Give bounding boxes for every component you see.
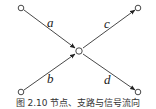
signal-flow-diagram: a b c d bbox=[0, 0, 156, 109]
node-bottom-right bbox=[135, 89, 141, 95]
node-center bbox=[76, 48, 82, 54]
edge-label-a: a bbox=[47, 15, 54, 30]
edge-label-d: d bbox=[104, 72, 111, 87]
node-bottom-left bbox=[18, 89, 24, 95]
figure-caption: 图 2.10 节点、支路与信号流向 bbox=[0, 96, 156, 109]
node-top-right bbox=[135, 5, 141, 11]
edge-label-c: c bbox=[104, 16, 110, 31]
edge-label-b: b bbox=[47, 71, 54, 86]
node-top-left bbox=[18, 5, 24, 11]
